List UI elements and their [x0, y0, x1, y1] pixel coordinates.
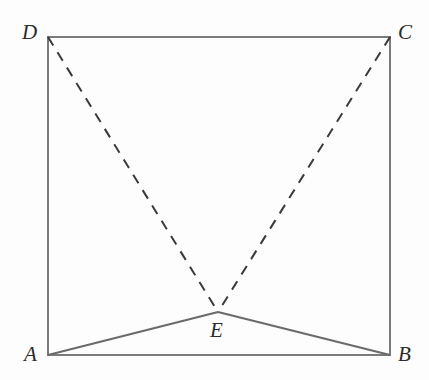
segment-CE — [218, 37, 390, 312]
segment-EB — [218, 312, 390, 355]
geometry-figure: D C A B E — [0, 0, 429, 380]
vertex-label-b: B — [398, 344, 411, 365]
segment-DE — [48, 37, 218, 312]
vertex-label-d: D — [22, 22, 37, 43]
vertex-label-a: A — [24, 344, 37, 365]
vertex-label-e: E — [210, 320, 223, 341]
square-outline-ABCD — [48, 37, 390, 355]
segment-AE — [48, 312, 218, 355]
vertex-label-c: C — [398, 22, 412, 43]
